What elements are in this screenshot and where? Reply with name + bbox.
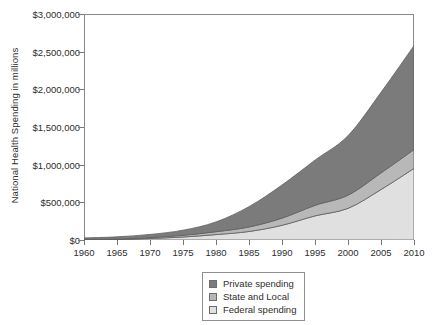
legend-swatch-icon	[209, 280, 217, 288]
x-tick-label: 1965	[106, 247, 127, 258]
legend-item-label: State and Local	[223, 291, 289, 302]
x-tick-mark	[216, 240, 217, 245]
x-tick-label: 1990	[271, 247, 292, 258]
legend-swatch-icon	[209, 306, 217, 314]
x-tick-mark	[315, 240, 316, 245]
x-tick-mark	[381, 240, 382, 245]
x-tick-label: 2010	[403, 247, 424, 258]
legend-swatch-icon	[209, 293, 217, 301]
legend-item[interactable]: Federal spending	[209, 303, 296, 316]
plot-area	[84, 14, 414, 240]
x-tick-mark	[414, 240, 415, 245]
x-tick-label: 2000	[337, 247, 358, 258]
x-tick-label: 2005	[370, 247, 391, 258]
x-tick-mark	[84, 240, 85, 245]
x-tick-mark	[249, 240, 250, 245]
legend-item-label: Private spending	[223, 278, 294, 289]
legend-item-label: Federal spending	[223, 304, 296, 315]
x-tick-label: 1960	[73, 247, 94, 258]
x-tick-mark	[348, 240, 349, 245]
x-tick-mark	[282, 240, 283, 245]
legend-item[interactable]: State and Local	[209, 290, 296, 303]
x-tick-label: 1985	[238, 247, 259, 258]
x-tick-label: 1975	[172, 247, 193, 258]
x-tick-mark	[117, 240, 118, 245]
legend-item[interactable]: Private spending	[209, 277, 296, 290]
x-tick-label: 1980	[205, 247, 226, 258]
x-tick-mark	[150, 240, 151, 245]
stacked-area-chart: National Health Spending in millions $0$…	[0, 0, 437, 325]
x-tick-label: 1970	[139, 247, 160, 258]
x-tick-mark	[183, 240, 184, 245]
legend: Private spendingState and LocalFederal s…	[202, 272, 305, 321]
x-tick-label: 1995	[304, 247, 325, 258]
